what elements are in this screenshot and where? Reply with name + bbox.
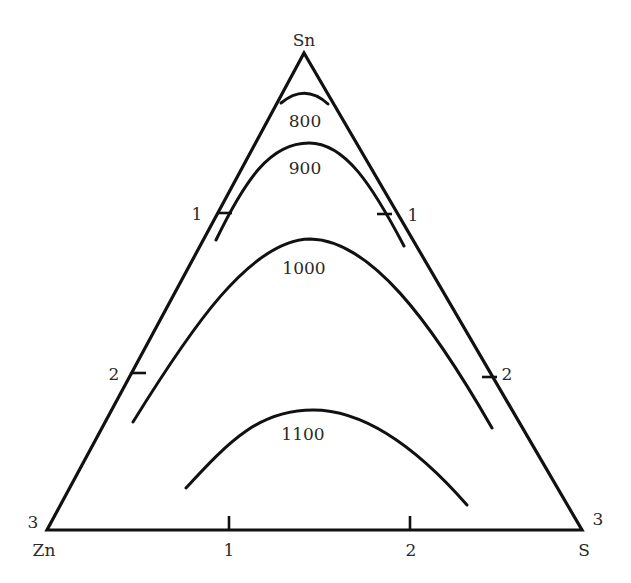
isotherm-800-curve (281, 93, 328, 104)
isotherm-label-1100: 1100 (281, 424, 324, 444)
isotherm-label-800: 800 (289, 111, 321, 131)
ternary-diagram: Sn Zn S 3 3 1 2 1 2 1 2 800 900 1000 110… (0, 0, 631, 583)
isotherm-label-1000: 1000 (282, 258, 325, 278)
corner-number-left: 3 (28, 512, 39, 532)
bottom-tick-label-2: 2 (406, 540, 417, 560)
isotherm-1100-curve (186, 410, 467, 505)
left-tick-label-1: 1 (192, 204, 203, 224)
isotherm-label-900: 900 (289, 158, 321, 178)
right-tick-label-2: 2 (502, 364, 513, 384)
corner-number-right: 3 (593, 509, 604, 529)
bottom-tick-label-1: 1 (224, 540, 235, 560)
vertex-label-sn: Sn (293, 30, 316, 50)
left-tick-label-2: 2 (109, 364, 120, 384)
vertex-label-zn: Zn (33, 540, 56, 560)
right-tick-label-1: 1 (408, 205, 419, 225)
vertex-label-s: S (578, 540, 590, 560)
